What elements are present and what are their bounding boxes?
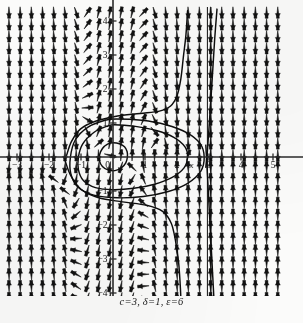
y-tick-label: 4 (103, 16, 108, 26)
y-tick-label: −3 (97, 254, 107, 264)
y-tick-label: 3 (103, 50, 108, 60)
x-tick-label: 2 (175, 160, 180, 170)
x-tick-label: 3 (207, 160, 212, 170)
x-axis-label: x (188, 160, 193, 170)
x-tick-label: 1 (143, 160, 148, 170)
y-tick-label: 2 (103, 84, 108, 94)
y-tick-label: −2 (97, 220, 107, 230)
x-tick-label: 4 (239, 160, 244, 170)
y-tick-label: −1 (97, 186, 107, 196)
y-tick-label: 1 (103, 118, 108, 128)
x-tick-label: −3 (12, 160, 22, 170)
phase-portrait-plot: −3−2−1012345−4−3−2−11234xy (0, 0, 303, 323)
phase-portrait-figure: −3−2−1012345−4−3−2−11234xy c=3, δ=1, ε=6 (0, 0, 303, 323)
x-tick-label: 5 (271, 160, 276, 170)
x-tick-label: −1 (76, 160, 86, 170)
figure-caption: c=3, δ=1, ε=6 (0, 296, 303, 307)
y-axis-label: y (96, 79, 101, 89)
x-tick-label-0: 0 (105, 160, 110, 170)
x-tick-label: −2 (44, 160, 54, 170)
